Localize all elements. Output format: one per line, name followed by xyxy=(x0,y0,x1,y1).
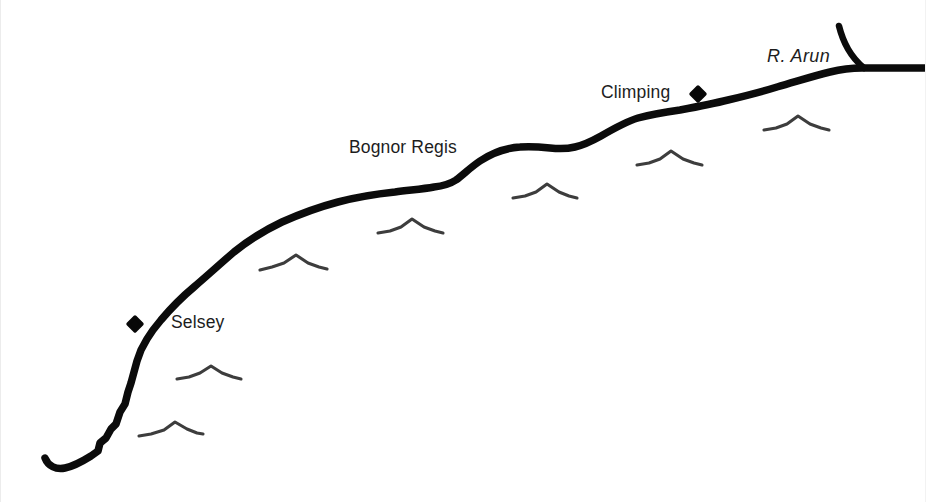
chevron-marks-group xyxy=(139,116,829,436)
chevron-icon-2 xyxy=(177,366,241,379)
settlement-marker-climping[interactable] xyxy=(691,87,705,101)
chevron-icon-7 xyxy=(764,116,829,130)
chevron-icon-5 xyxy=(513,184,577,198)
place-label-bognor-regis: Bognor Regis xyxy=(349,139,457,157)
place-label-selsey: Selsey xyxy=(171,314,224,332)
chevron-icon-3 xyxy=(260,255,327,270)
settlement-marker-selsey[interactable] xyxy=(128,317,142,331)
chevron-icon-4 xyxy=(378,219,443,233)
chevron-icon-6 xyxy=(637,151,702,165)
river-label-arun: R. Arun xyxy=(767,47,830,65)
place-label-climping: Climping xyxy=(601,84,670,102)
river-arun-path xyxy=(839,26,864,68)
coastline-path xyxy=(45,68,926,469)
map-graphics-layer xyxy=(1,0,926,502)
map-canvas: Selsey Bognor Regis Climping R. Arun xyxy=(0,0,926,502)
chevron-icon-1 xyxy=(139,422,203,436)
